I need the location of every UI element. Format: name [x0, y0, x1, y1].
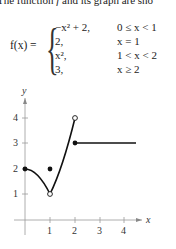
open-point-1-1: [48, 192, 53, 197]
x-tick-label: 1: [47, 225, 52, 236]
case-cond: x = 1: [117, 35, 140, 47]
y-tick-label: 4: [13, 112, 18, 123]
piecewise-equation: f(x) = { −x² + 2, 0 ≤ x < 1 2, x = 1 x²,…: [0, 18, 176, 80]
y-tick-label: 2: [13, 163, 18, 174]
x-tick-label: 2: [72, 225, 77, 236]
intro-text: The function f and its graph are sho: [0, 0, 153, 6]
open-point-2-4: [73, 116, 78, 121]
case-cond: x ≥ 2: [117, 63, 140, 75]
x-axis-arrow-icon: [136, 218, 142, 222]
x-tick-label: 3: [97, 225, 102, 236]
y-tick-label: 3: [13, 137, 18, 148]
square-segment: [50, 118, 75, 194]
x-axis-label: x: [145, 214, 151, 225]
case-expr: 3,: [55, 63, 63, 75]
curves: [25, 118, 136, 194]
x-tick-label: 4: [121, 225, 126, 236]
y-axis-label: y: [21, 85, 27, 96]
y-tick-label: 1: [13, 188, 18, 199]
closed-point-2-3: [73, 141, 78, 146]
case-expr: x²,: [55, 49, 67, 61]
parabola-segment: [25, 169, 50, 194]
case-cond: 1 < x < 2: [117, 49, 157, 61]
case-cond: 0 ≤ x < 1: [117, 21, 157, 33]
y-axis-arrow-icon: [23, 98, 27, 104]
equation-lhs: f(x) =: [10, 39, 37, 51]
function-graph: x y 1 2 3 4 1 2 3 4: [0, 80, 176, 249]
closed-point-1-2: [48, 167, 53, 172]
axes: [14, 98, 142, 235]
case-expr: 2,: [55, 35, 63, 47]
closed-point-0-2: [23, 167, 28, 172]
case-expr: −x² + 2,: [55, 21, 90, 33]
